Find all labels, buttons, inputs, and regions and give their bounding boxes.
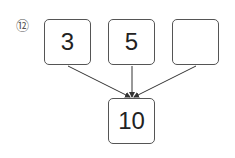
sum-box: 10 (108, 98, 155, 144)
addend-box-1: 3 (44, 19, 91, 65)
addend-box-2: 5 (108, 19, 155, 65)
addend-box-blank[interactable] (172, 19, 219, 65)
